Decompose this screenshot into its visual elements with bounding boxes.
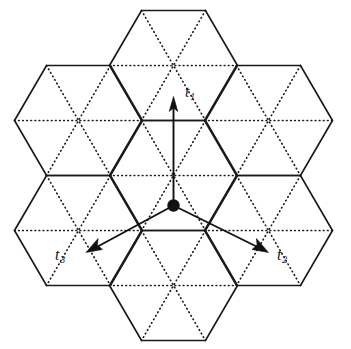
lattice-origin-dot: [167, 199, 179, 211]
vector-label-t2-base: t: [277, 246, 281, 263]
hexagon-bottom: [110, 231, 238, 341]
vector-label-t3-subscript: 3: [60, 254, 65, 265]
vector-t2: [174, 206, 269, 253]
hexagon-lower-left: [15, 176, 143, 286]
hex-diagonals-lower-left: [15, 176, 143, 286]
hexagon-upper-left: [15, 66, 143, 176]
hexagonal-lattice-figure: t1 t2 t3: [0, 0, 351, 349]
vector-label-t1-base: t: [185, 83, 189, 100]
hex-diagonals-upper-right: [205, 66, 333, 176]
vector-label-t1-subscript: 1: [190, 91, 195, 102]
vector-t3: [86, 206, 174, 253]
vector-t1: [169, 97, 178, 206]
vector-label-t3-base: t: [55, 246, 59, 263]
hex-diagonals-upper-left: [15, 66, 143, 176]
vector-label-t2-subscript: 2: [282, 254, 287, 265]
vector-label-t1: t1: [185, 84, 195, 100]
lattice-canvas: [0, 0, 351, 349]
hex-diagonals-bottom: [110, 231, 238, 341]
vector-label-t3: t3: [55, 247, 65, 263]
hexagon-upper-right: [205, 66, 333, 176]
vector-label-t2: t2: [277, 247, 287, 263]
